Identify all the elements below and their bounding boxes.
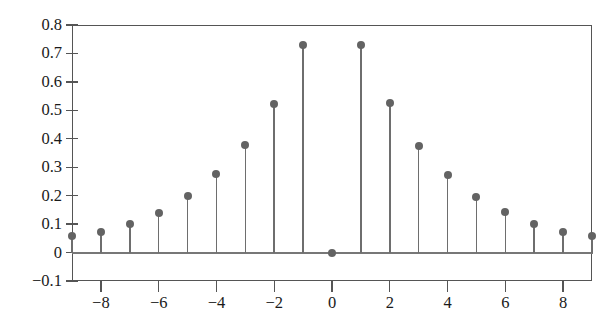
stem-marker xyxy=(357,41,365,49)
stem-line xyxy=(187,196,189,252)
x-tick-label: 6 xyxy=(485,295,525,312)
y-tick-label: 0 xyxy=(0,245,62,262)
stem-marker xyxy=(386,99,394,107)
x-tick xyxy=(158,281,159,292)
stem-marker xyxy=(155,209,163,217)
stem-plot-figure: 0.80.70.60.50.40.30.20.10−0.1 −8−6−4−202… xyxy=(0,0,605,330)
stem-line xyxy=(129,224,131,253)
stem-marker xyxy=(299,41,307,49)
x-tick-label: −8 xyxy=(81,295,121,312)
stem-line xyxy=(533,224,535,252)
y-tick-label: 0.6 xyxy=(0,74,62,91)
stem-line xyxy=(216,174,218,252)
stem-marker xyxy=(126,220,134,228)
stem-marker xyxy=(328,249,336,257)
stem-line xyxy=(476,197,478,253)
x-tick xyxy=(562,281,563,292)
y-tick-label: 0.7 xyxy=(0,45,62,62)
stem-marker xyxy=(559,228,567,236)
x-tick xyxy=(274,281,275,292)
x-tick xyxy=(447,281,448,292)
y-tick-label: 0.8 xyxy=(0,17,62,34)
x-tick xyxy=(216,281,217,292)
x-tick-label: 4 xyxy=(428,295,468,312)
x-tick-label: 8 xyxy=(543,295,583,312)
x-tick xyxy=(100,281,101,292)
y-tick-label: 0.3 xyxy=(0,159,62,176)
y-tick-label: 0.1 xyxy=(0,216,62,233)
x-tick-label: −2 xyxy=(254,295,294,312)
stem-line xyxy=(505,212,507,252)
stem-line xyxy=(418,146,420,253)
stem-marker xyxy=(270,100,278,108)
stem-line xyxy=(360,45,362,253)
stem-line xyxy=(245,145,247,253)
x-tick-label: 0 xyxy=(312,295,352,312)
y-tick-label: 0.2 xyxy=(0,188,62,205)
x-tick xyxy=(389,281,390,292)
stem-marker xyxy=(97,228,105,236)
stem-line xyxy=(158,213,160,253)
stem-marker xyxy=(444,171,452,179)
x-tick-label: 2 xyxy=(370,295,410,312)
plot-area xyxy=(72,25,592,281)
x-tick xyxy=(505,281,506,292)
y-tick-label: 0.4 xyxy=(0,131,62,148)
stem-marker xyxy=(184,192,192,200)
x-tick-label: −6 xyxy=(139,295,179,312)
stem-line xyxy=(273,104,275,253)
y-tick-label: −0.1 xyxy=(0,273,62,290)
stem-line xyxy=(302,45,304,253)
y-tick-label: 0.5 xyxy=(0,102,62,119)
stem-line xyxy=(389,103,391,253)
stem-marker xyxy=(415,142,423,150)
x-tick xyxy=(331,281,332,292)
x-tick-label: −4 xyxy=(196,295,236,312)
stem-marker xyxy=(588,232,596,240)
stem-line xyxy=(447,175,449,253)
